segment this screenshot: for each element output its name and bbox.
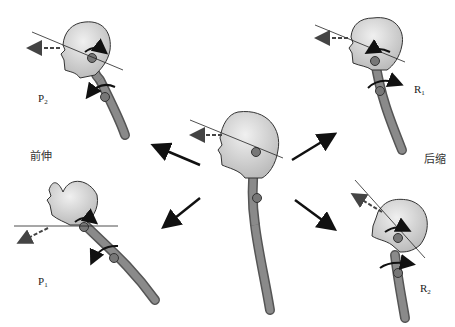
diagram-canvas: [0, 0, 455, 327]
label-p1-sub: 1: [44, 281, 48, 289]
label-p2-sub: 2: [44, 98, 48, 106]
label-r1: R1: [414, 83, 425, 97]
label-retraction: 后缩: [424, 150, 446, 166]
p2-head-figure: [30, 22, 125, 135]
label-r1-sub: 1: [421, 89, 425, 97]
label-p1: P1: [38, 275, 48, 289]
label-protraction: 前伸: [30, 147, 52, 163]
label-p2: P2: [38, 92, 48, 106]
label-r2-sub: 2: [427, 288, 431, 296]
center-head-figure: [190, 112, 283, 310]
p1-head-figure: [14, 181, 155, 300]
r2-head-figure: [354, 180, 427, 318]
label-r2: R2: [420, 282, 431, 296]
r1-head-figure: [315, 18, 405, 150]
